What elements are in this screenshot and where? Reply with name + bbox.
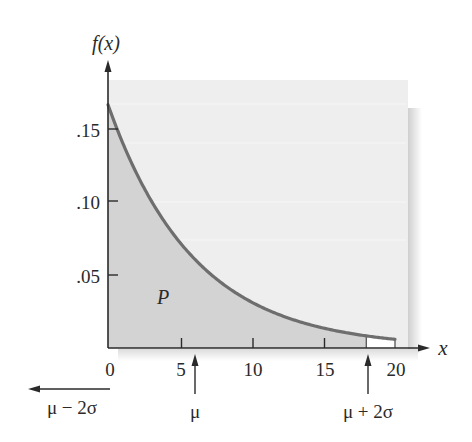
mu-minus-2sigma-label: μ − 2σ (47, 397, 97, 418)
panel-shadow-bottom (118, 349, 418, 361)
y-tick-label-15: .15 (76, 120, 100, 141)
y-axis-arrow-icon (105, 60, 112, 72)
exponential-density-chart: .15 .10 .05 0 5 10 15 20 f(x) x P μ μ + … (0, 0, 472, 442)
mu-plus-2sigma-label: μ + 2σ (343, 401, 393, 422)
x-tick-label-10: 10 (244, 359, 263, 380)
x-axis-title: x (437, 336, 448, 360)
panel-shadow-right (408, 108, 422, 353)
x-tick-label-15: 15 (316, 359, 335, 380)
x-tick-label-5: 5 (176, 359, 186, 380)
y-tick-label-05: .05 (76, 266, 100, 287)
y-axis-title: f(x) (92, 32, 120, 55)
mu-label: μ (190, 401, 200, 422)
x-tick-label-0: 0 (105, 359, 115, 380)
area-label-P: P (156, 286, 169, 308)
x-tick-label-20: 20 (387, 359, 406, 380)
x-axis-arrow-icon (418, 345, 430, 352)
mu-minus-2sigma-left-arrow-icon (28, 386, 40, 393)
y-tick-label-10: .10 (76, 192, 100, 213)
